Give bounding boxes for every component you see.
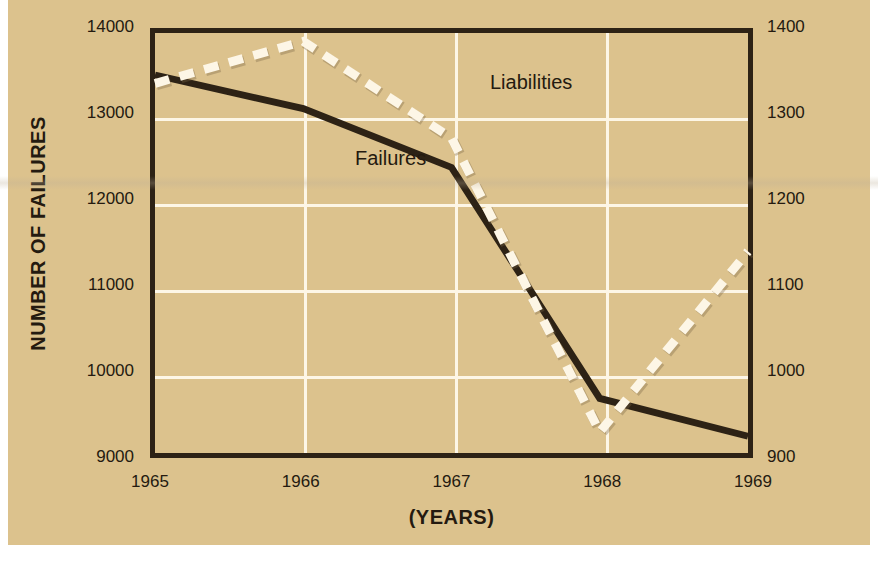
x-tick-label: 1965 <box>100 472 200 492</box>
y-tick-label-left: 9000 <box>14 447 134 467</box>
series-line-liabilities-shadow <box>156 43 749 434</box>
series-line-failures <box>155 75 748 436</box>
series-label-liabilities: Liabilities <box>490 71 572 94</box>
y-tick-label-left: 11000 <box>14 275 134 295</box>
chart-card: NUMBER OF FAILURES (MILLIONS OF DOLLARS)… <box>8 0 870 545</box>
y-tick-label-right: 1300 <box>767 103 857 123</box>
series-line-liabilities <box>155 41 748 432</box>
y-tick-label-left: 10000 <box>14 361 134 381</box>
y-axis-title-left: NUMBER OF FAILURES <box>27 84 50 384</box>
series-layer <box>155 33 748 453</box>
x-tick-label: 1969 <box>703 472 803 492</box>
x-tick-label: 1968 <box>552 472 652 492</box>
y-tick-label-right: 1200 <box>767 189 857 209</box>
y-tick-label-left: 12000 <box>14 189 134 209</box>
x-tick-label: 1966 <box>251 472 351 492</box>
y-tick-label-right: 1100 <box>767 275 857 295</box>
series-label-failures: Failures <box>355 147 426 170</box>
plot-area: Failures Liabilities <box>150 28 753 458</box>
y-tick-label-right: 1000 <box>767 361 857 381</box>
y-tick-label-left: 13000 <box>14 103 134 123</box>
x-axis-title: (YEARS) <box>150 506 753 529</box>
chart-screenshot: NUMBER OF FAILURES (MILLIONS OF DOLLARS)… <box>0 0 878 567</box>
x-tick-label: 1967 <box>402 472 502 492</box>
y-tick-label-left: 14000 <box>14 17 134 37</box>
y-tick-label-right: 1400 <box>767 17 857 37</box>
y-tick-label-right: 900 <box>767 447 857 467</box>
